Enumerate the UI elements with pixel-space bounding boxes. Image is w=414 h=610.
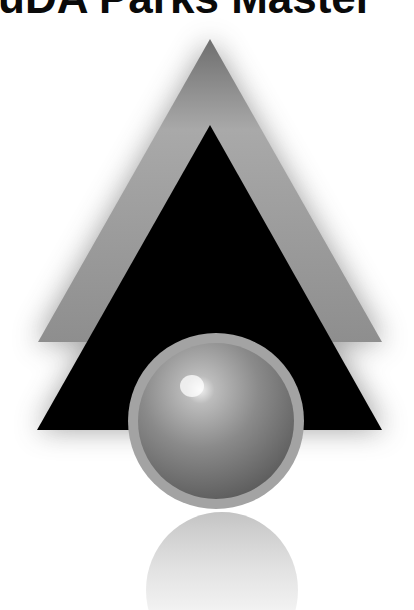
logo-emblem bbox=[0, 0, 414, 610]
sphere bbox=[138, 343, 294, 499]
sphere-reflection bbox=[146, 512, 298, 610]
sphere-highlight bbox=[180, 375, 204, 397]
